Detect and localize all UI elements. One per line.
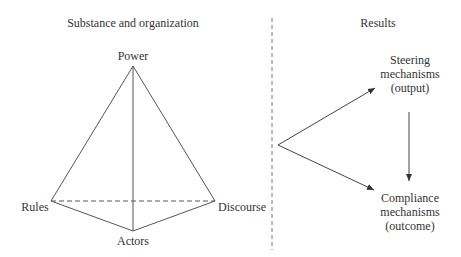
vertex-rules-label: Rules xyxy=(15,200,55,214)
edge-discourse-actors xyxy=(133,201,215,231)
steering-line-2: mechanisms xyxy=(370,67,450,81)
arrow-to-compliance xyxy=(278,145,374,190)
vertex-actors-label: Actors xyxy=(103,234,163,248)
compliance-line-2: mechanisms xyxy=(369,205,451,219)
vertex-discourse-label: Discourse xyxy=(212,200,272,214)
steering-mechanisms-node: Steering mechanisms (output) xyxy=(370,53,450,95)
right-section-title: Results xyxy=(348,16,408,30)
edge-rules-actors xyxy=(51,201,133,231)
fork xyxy=(278,88,375,190)
edge-power-discourse xyxy=(133,66,215,201)
compliance-mechanisms-node: Compliance mechanisms (outcome) xyxy=(369,191,451,233)
edge-power-rules xyxy=(51,66,133,201)
steering-line-3: (output) xyxy=(370,81,450,95)
left-section-title: Substance and organization xyxy=(53,16,213,30)
compliance-line-1: Compliance xyxy=(369,191,451,205)
arrow-to-steering xyxy=(278,88,375,145)
result-arrows xyxy=(278,88,409,190)
compliance-line-3: (outcome) xyxy=(369,219,451,233)
vertex-power-label: Power xyxy=(103,49,163,63)
steering-line-1: Steering xyxy=(370,53,450,67)
pyramid xyxy=(51,66,215,231)
